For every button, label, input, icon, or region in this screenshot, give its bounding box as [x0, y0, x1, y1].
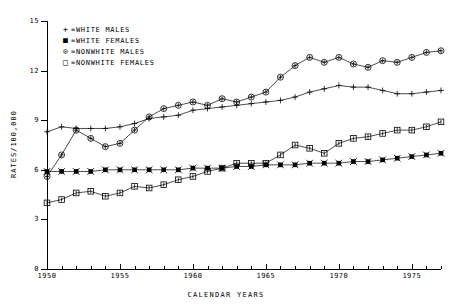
plot-area: [0, 0, 452, 308]
chart-root: 03691215 195019551960196519701975 RATES/…: [0, 0, 452, 308]
series-white-females: [44, 150, 445, 175]
series-white-males: [44, 83, 444, 135]
series-nonwhite-females: [44, 119, 444, 206]
